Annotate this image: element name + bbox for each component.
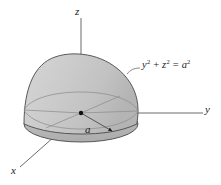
hemisphere-dome bbox=[24, 54, 138, 134]
equation-plus: + bbox=[150, 59, 162, 70]
hemisphere-figure: z y x a y2 + z2 = a2 bbox=[0, 0, 221, 185]
axis-z-label: z bbox=[75, 6, 79, 17]
axis-x-label: x bbox=[11, 165, 16, 176]
figure-canvas bbox=[0, 0, 221, 185]
axis-y-label: y bbox=[205, 104, 210, 115]
radius-label: a bbox=[85, 124, 91, 135]
equation-label: y2 + z2 = a2 bbox=[142, 60, 191, 71]
equation-equals: = bbox=[170, 59, 182, 70]
equation-leader-line bbox=[127, 68, 140, 74]
origin-dot bbox=[79, 111, 83, 115]
equation-a-exponent: 2 bbox=[187, 58, 190, 65]
